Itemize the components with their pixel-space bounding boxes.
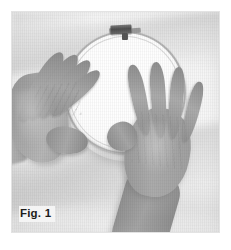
figure-caption: Fig. 1 [19,206,55,222]
photograph [11,11,220,233]
hoop-bracket-right [131,28,140,34]
figure-panel: Fig. 1 [0,0,231,250]
hoop-screw-post [122,33,128,40]
right-hand-highlight [137,122,176,173]
right-hand [111,60,220,232]
left-hand [11,43,120,179]
